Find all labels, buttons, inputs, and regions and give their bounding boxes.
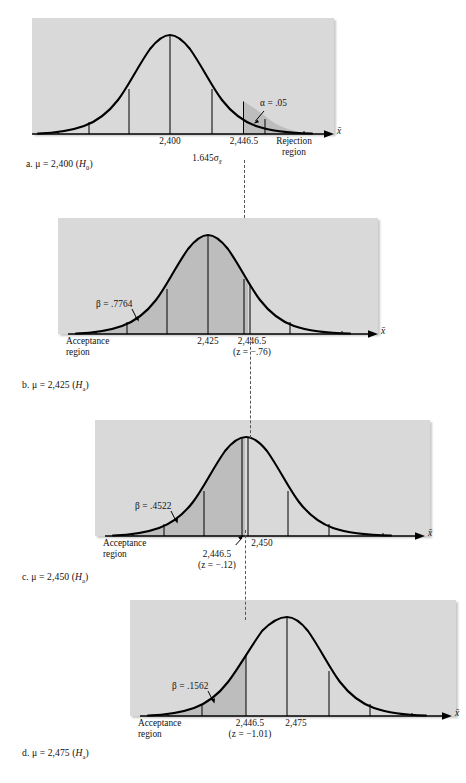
panel-d-beta-label: β = .1562 xyxy=(172,681,208,691)
threshold-dashed-line-a-to-b xyxy=(244,160,245,218)
acceptance-region-line2: region xyxy=(138,729,162,739)
panel-c-caption: c. μ = 2,450 (Ha) xyxy=(22,571,88,584)
acceptance-region-line1: Acceptance xyxy=(103,538,146,548)
panel-d-boundary-label: 2,446.5 xyxy=(236,718,265,728)
panel-b-boundary-label: 2,446.5 xyxy=(238,336,267,346)
panel-c-mean-label: 2,450 xyxy=(251,538,272,548)
panel-b-curve xyxy=(58,218,388,343)
panel-c-axis-label: x̄ xyxy=(428,528,432,538)
panel-d-mean-label: 2,475 xyxy=(285,718,306,728)
panel-b-mean-label: 2,425 xyxy=(197,336,218,346)
panel-a: α = .05 2,400 2,446.5 x̄ Rejection regio… xyxy=(32,18,342,143)
panel-c-boundary-label: 2,446.5 xyxy=(203,549,232,559)
panel-a-rejection-region-label: Rejection region xyxy=(276,136,312,158)
panel-c-acceptance-region-label: Acceptance region xyxy=(103,538,146,560)
panel-a-curve xyxy=(32,18,342,143)
panel-a-mean-label: 2,400 xyxy=(159,136,180,146)
panel-d-curve xyxy=(130,600,466,725)
acceptance-region-line2: region xyxy=(66,347,90,357)
hypothesis-test-figure: α = .05 2,400 2,446.5 x̄ Rejection regio… xyxy=(0,0,466,783)
panel-b-beta-label: β = .7764 xyxy=(96,299,132,309)
panel-a-boundary-label: 2,446.5 xyxy=(230,136,259,146)
threshold-dashed-line-b-to-c xyxy=(250,337,251,438)
panel-c: β = .4522 2,446.5 (z = −.12) 2,450 x̄ Ac… xyxy=(95,420,440,545)
panel-c-curve xyxy=(95,420,440,545)
threshold-dashed-line-c-to-d xyxy=(245,530,246,620)
panel-c-z-label: (z = −.12) xyxy=(198,560,236,570)
acceptance-region-line2: region xyxy=(103,549,127,559)
panel-b-caption: b. μ = 2,425 (Ha) xyxy=(22,379,89,392)
panel-d-axis-label: x̄ xyxy=(455,708,459,718)
panel-b: β = .7764 2,425 2,446.5 (z = −.76) x̄ Ac… xyxy=(58,218,388,343)
panel-d-caption: d. μ = 2,475 (Ha) xyxy=(22,747,89,760)
panel-a-caption: a. μ = 2,400 (H0) xyxy=(26,158,93,171)
panel-b-acceptance-region-label: Acceptance region xyxy=(66,336,109,358)
panel-c-beta-label: β = .4522 xyxy=(135,501,171,511)
rejection-region-line2: region xyxy=(282,147,306,157)
panel-b-z-label: (z = −.76) xyxy=(233,347,271,357)
panel-d-acceptance-region-label: Acceptance region xyxy=(138,718,181,740)
panel-a-sigma-label: 1.645σx̄ xyxy=(192,153,221,165)
acceptance-region-line1: Acceptance xyxy=(138,718,181,728)
panel-a-axis-label: x̄ xyxy=(337,126,341,136)
rejection-region-line1: Rejection xyxy=(276,136,312,146)
acceptance-region-line1: Acceptance xyxy=(66,336,109,346)
panel-b-axis-label: x̄ xyxy=(381,326,385,336)
panel-d-z-label: (z = −1.01) xyxy=(229,729,272,739)
panel-a-alpha-label: α = .05 xyxy=(260,98,287,108)
panel-d: β = .1562 2,446.5 (z = −1.01) 2,475 x̄ A… xyxy=(130,600,466,725)
